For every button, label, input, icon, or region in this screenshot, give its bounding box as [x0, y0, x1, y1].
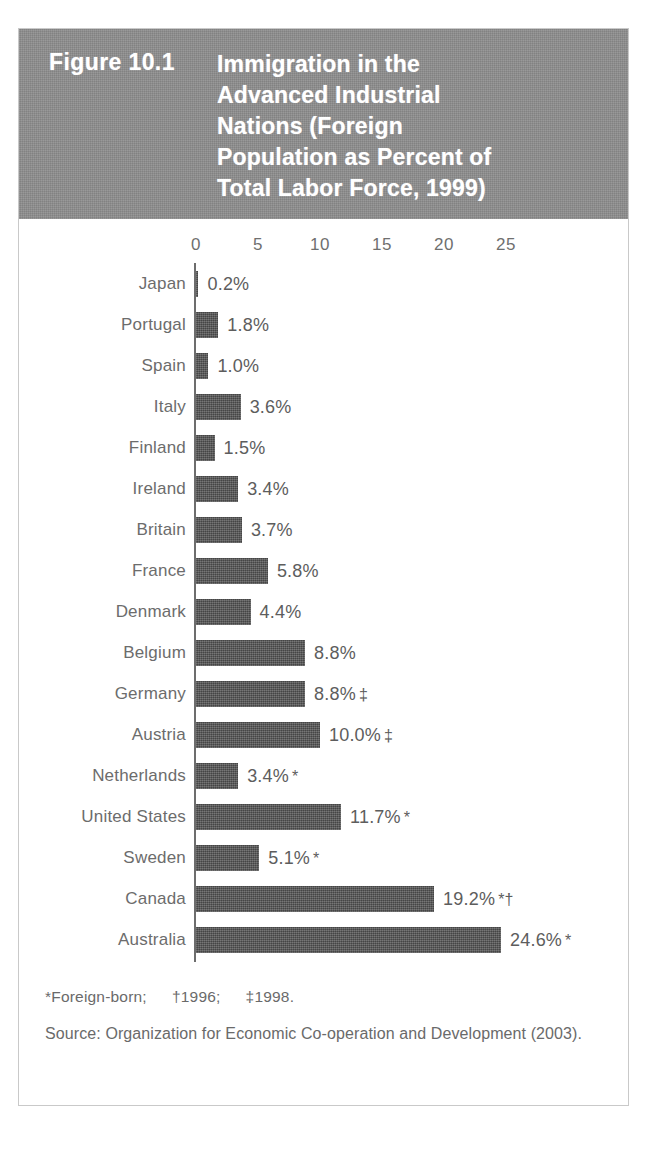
bar-row: Germany8.8%‡ [19, 673, 628, 714]
bar [196, 722, 320, 748]
bar-row: Portugal1.8% [19, 304, 628, 345]
bar-row: Japan0.2% [19, 263, 628, 304]
bar-value-number: 8.8% [314, 683, 356, 703]
x-axis-tick-0: 0 [191, 235, 201, 255]
bar-value-number: 1.8% [227, 314, 269, 334]
bar-category-label: Britain [19, 520, 186, 540]
bar [196, 763, 238, 789]
bar-chart-bars: Japan0.2%Portugal1.8%Spain1.0%Italy3.6%F… [19, 263, 628, 966]
bar-value-label: 11.7%* [350, 806, 410, 827]
figure-caption-line: Immigration in the [217, 49, 491, 80]
bar [196, 558, 268, 584]
bar [196, 271, 198, 297]
footnote-dagger: †1996; [172, 988, 221, 1005]
bar-category-label: Germany [19, 684, 186, 704]
bar-value-label: 19.2%*† [443, 888, 514, 909]
bar [196, 312, 218, 338]
bar-value-footnote-marker: ‡ [356, 685, 368, 702]
x-axis-tick-20: 20 [434, 235, 454, 255]
bar-value-label: 3.6% [250, 396, 292, 417]
bar-row: Netherlands3.4%* [19, 755, 628, 796]
bar-category-label: Canada [19, 889, 186, 909]
bar [196, 927, 501, 953]
bar-row: Spain1.0% [19, 345, 628, 386]
bar-value-label: 8.8% [314, 642, 356, 663]
bar-value-number: 19.2% [443, 888, 495, 908]
bar-track: 5.1%* [196, 845, 628, 871]
bar-category-label: Finland [19, 438, 186, 458]
x-axis-tick-15: 15 [372, 235, 392, 255]
figure-caption-line: Total Labor Force, 1999) [217, 173, 491, 204]
bar [196, 886, 434, 912]
bar-value-footnote-marker: * [310, 849, 319, 866]
figure-caption-line: Advanced Industrial [217, 80, 491, 111]
bar-category-label: United States [19, 807, 186, 827]
bar-value-label: 5.1%* [268, 847, 319, 868]
bar-value-label: 4.4% [260, 601, 302, 622]
bar-row: United States11.7%* [19, 796, 628, 837]
bar-category-label: Netherlands [19, 766, 186, 786]
bar-value-number: 5.1% [268, 847, 310, 867]
bar-value-number: 11.7% [350, 806, 401, 826]
footnote-symbol-legend: *Foreign-born; †1996; ‡1998. [45, 988, 602, 1006]
bar-category-label: Sweden [19, 848, 186, 868]
bar-value-number: 24.6% [510, 929, 562, 949]
bar-track: 8.8% [196, 640, 628, 666]
bar-track: 1.5% [196, 435, 628, 461]
bar-value-label: 8.8%‡ [314, 683, 368, 704]
bar-value-footnote-marker: *† [495, 890, 514, 907]
bar [196, 353, 208, 379]
bar-track: 1.8% [196, 312, 628, 338]
source-note: Source: Organization for Economic Co-ope… [45, 1023, 601, 1045]
bar-value-label: 3.4%* [247, 765, 298, 786]
bar-value-number: 1.0% [217, 355, 259, 375]
bar-value-footnote-marker: * [289, 767, 298, 784]
bar-value-number: 10.0% [329, 724, 381, 744]
bar-row: Belgium8.8% [19, 632, 628, 673]
bar-track: 0.2% [196, 271, 628, 297]
bar [196, 640, 305, 666]
bar-value-label: 10.0%‡ [329, 724, 393, 745]
bar [196, 845, 259, 871]
bar-value-label: 1.0% [217, 355, 259, 376]
bar-value-label: 1.8% [227, 314, 269, 335]
bar-category-label: Denmark [19, 602, 186, 622]
bar-row: Sweden5.1%* [19, 837, 628, 878]
bar-category-label: Japan [19, 274, 186, 294]
bar-row: Denmark4.4% [19, 591, 628, 632]
bar-track: 24.6%* [196, 927, 628, 953]
bar [196, 599, 251, 625]
bar-value-label: 3.7% [251, 519, 293, 540]
bar-track: 3.4%* [196, 763, 628, 789]
footnote-asterisk: *Foreign-born; [45, 988, 147, 1005]
bar-track: 4.4% [196, 599, 628, 625]
footnote-double-dagger: ‡1998. [246, 988, 295, 1005]
bar-track: 11.7%* [196, 804, 628, 830]
figure-caption-line: Nations (Foreign [217, 111, 491, 142]
figure-number: Figure 10.1 [49, 49, 217, 76]
bar-category-label: Austria [19, 725, 186, 745]
bar-value-number: 8.8% [314, 642, 356, 662]
bar [196, 476, 238, 502]
bar-row: France5.8% [19, 550, 628, 591]
bar-category-label: Belgium [19, 643, 186, 663]
x-axis-tick-5: 5 [253, 235, 263, 255]
bar-value-label: 3.4% [247, 478, 289, 499]
bar-value-number: 3.4% [247, 765, 289, 785]
bar-row: Britain3.7% [19, 509, 628, 550]
bar-row: Canada19.2%*† [19, 878, 628, 919]
figure-caption: Immigration in theAdvanced IndustrialNat… [217, 49, 491, 204]
bar-value-label: 24.6%* [510, 929, 571, 950]
bar-row: Ireland3.4% [19, 468, 628, 509]
bar-category-label: Ireland [19, 479, 186, 499]
bar-row: Italy3.6% [19, 386, 628, 427]
bar [196, 435, 215, 461]
figure-footnotes: *Foreign-born; †1996; ‡1998. Source: Org… [19, 966, 628, 1045]
bar-track: 10.0%‡ [196, 722, 628, 748]
bar-value-footnote-marker: * [401, 808, 410, 825]
bar-row: Finland1.5% [19, 427, 628, 468]
bar-value-footnote-marker: * [562, 931, 571, 948]
bar-row: Austria10.0%‡ [19, 714, 628, 755]
bar [196, 804, 341, 830]
x-axis-tick-labels: 0510152025 [19, 229, 628, 263]
